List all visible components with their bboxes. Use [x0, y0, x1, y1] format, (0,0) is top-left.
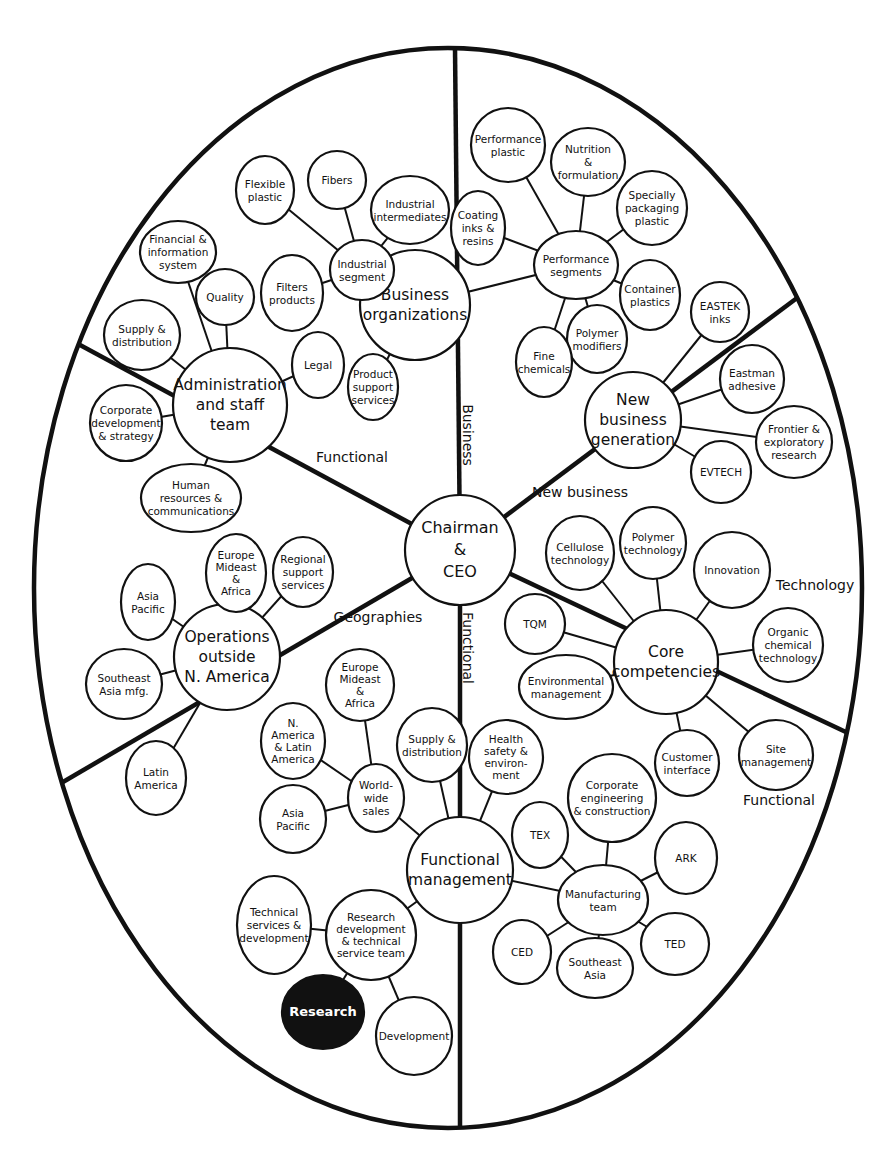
- node-na-latin-america[interactable]: N.America& LatinAmerica: [261, 703, 325, 779]
- node-organic-chemical-technology[interactable]: Organicchemicaltechnology: [753, 608, 823, 682]
- node-label: Supply &: [408, 733, 455, 745]
- node-label: environ-: [484, 757, 527, 769]
- node-label: Functional: [420, 851, 500, 869]
- node-supply-distribution-func[interactable]: Supply &distribution: [397, 708, 467, 782]
- node-fine-chemicals[interactable]: Finechemicals: [516, 327, 572, 397]
- node-label: Supply &: [118, 323, 165, 335]
- node-frontier-exploratory-research[interactable]: Frontier &exploratoryresearch: [756, 406, 832, 478]
- node-legal[interactable]: Legal: [292, 332, 344, 398]
- node-label: inks: [709, 313, 730, 325]
- node-innovation[interactable]: Innovation: [694, 532, 770, 608]
- bubble-shape: [614, 610, 718, 714]
- sector-label-new-business: New business: [532, 484, 628, 500]
- node-label: & technical: [341, 935, 400, 947]
- node-ceo[interactable]: Chairman&CEO: [405, 495, 515, 605]
- node-health-safety-environment[interactable]: Healthsafety &environ-ment: [469, 720, 543, 794]
- node-corporate-development-strategy[interactable]: Corporatedevelopment& strategy: [90, 385, 162, 461]
- node-specially-packaging-plastic[interactable]: Speciallypackagingplastic: [617, 171, 687, 245]
- node-regional-support-services[interactable]: Regionalsupportservices: [273, 537, 333, 607]
- node-label: America: [134, 779, 177, 791]
- node-polymer-technology[interactable]: Polymertechnology: [620, 507, 686, 579]
- node-southeast-asia-mfg-team[interactable]: SoutheastAsia: [557, 938, 633, 998]
- node-customer-interface[interactable]: Customerinterface: [655, 730, 719, 796]
- node-label: organizations: [363, 306, 467, 324]
- node-technical-services-development[interactable]: Technicalservices &development: [237, 876, 311, 974]
- node-label: Asia: [584, 969, 606, 981]
- node-industrial-segment[interactable]: Industrialsegment: [330, 240, 394, 300]
- node-europe-mideast-africa-sales[interactable]: EuropeMideast&Africa: [326, 649, 394, 721]
- node-label: Human: [172, 479, 210, 491]
- node-fibers[interactable]: Fibers: [308, 151, 366, 209]
- node-functional-management[interactable]: Functionalmanagement: [407, 817, 513, 923]
- node-industrial-intermediates[interactable]: Industrialintermediates: [371, 176, 449, 244]
- node-nutrition-formulation[interactable]: Nutrition&formulation: [551, 128, 625, 196]
- node-core-competencies[interactable]: Corecompetencies: [612, 610, 720, 714]
- node-container-plastics[interactable]: Containerplastics: [620, 260, 680, 330]
- node-label: & Latin: [274, 741, 312, 753]
- sector-label-geographies: Geographies: [334, 609, 423, 625]
- node-evtech[interactable]: EVTECH: [691, 441, 751, 503]
- node-label: chemicals: [518, 363, 571, 375]
- node-europe-mideast-africa-ops[interactable]: EuropeMideast&Africa: [206, 534, 266, 612]
- node-label: distribution: [402, 746, 462, 758]
- org-bubble-diagram: BusinessorganizationsIndustrialsegmentFl…: [0, 0, 896, 1151]
- node-label: Cellulose: [556, 541, 604, 553]
- node-supply-distribution-admin[interactable]: Supply &distribution: [104, 300, 180, 370]
- node-performance-plastic[interactable]: Performanceplastic: [471, 108, 545, 182]
- node-human-resources-communications[interactable]: Humanresources &communications: [141, 464, 241, 532]
- node-label: engineering: [581, 792, 644, 804]
- node-flexible-plastic[interactable]: Flexibleplastic: [236, 156, 294, 224]
- node-asia-pacific-sales[interactable]: AsiaPacific: [260, 785, 326, 853]
- node-performance-segments[interactable]: Performancesegments: [534, 231, 618, 299]
- node-label: Mideast: [215, 561, 256, 573]
- node-label: Latin: [143, 766, 169, 778]
- node-cellulose-technology[interactable]: Cellulosetechnology: [546, 516, 614, 590]
- node-southeast-asia-mfg[interactable]: SoutheastAsia mfg.: [86, 649, 162, 719]
- node-eastek-inks[interactable]: EASTEKinks: [691, 282, 749, 342]
- node-tqm[interactable]: TQM: [505, 594, 565, 654]
- node-coating-inks-resins[interactable]: Coatinginks &resins: [451, 191, 505, 265]
- node-label: sales: [363, 805, 390, 817]
- node-label: ment: [492, 769, 519, 781]
- node-label: plastic: [248, 191, 283, 203]
- node-ced[interactable]: CED: [493, 920, 551, 984]
- node-ark[interactable]: ARK: [655, 822, 717, 894]
- node-eastman-adhesive[interactable]: Eastmanadhesive: [720, 345, 784, 413]
- node-label: safety &: [484, 745, 528, 757]
- node-ted[interactable]: TED: [641, 913, 709, 975]
- node-label: Coating: [458, 209, 499, 221]
- node-label: EASTEK: [700, 300, 742, 312]
- node-site-management[interactable]: Sitemanagement: [739, 720, 813, 790]
- node-environmental-management[interactable]: Environmentalmanagement: [519, 655, 613, 719]
- node-product-support-services[interactable]: Productsupportservices: [348, 354, 398, 420]
- node-label: services &: [247, 919, 302, 931]
- sector-label-technology: Technology: [775, 577, 854, 593]
- node-label: Flexible: [245, 178, 285, 190]
- node-label: TQM: [522, 618, 547, 630]
- node-label: Customer: [661, 751, 713, 763]
- node-filters-products[interactable]: Filtersproducts: [261, 255, 323, 331]
- node-label: plastics: [630, 296, 670, 308]
- node-development[interactable]: Development: [376, 997, 452, 1075]
- node-label: &: [454, 540, 466, 559]
- node-operations-outside-na[interactable]: OperationsoutsideN. America: [174, 604, 280, 710]
- node-label: N.: [287, 717, 298, 729]
- node-world-wide-sales[interactable]: World-widesales: [348, 764, 404, 832]
- node-tex[interactable]: TEX: [512, 802, 568, 868]
- node-asia-pacific-ops[interactable]: AsiaPacific: [121, 564, 175, 640]
- node-label: Health: [489, 733, 523, 745]
- node-administration-staff-team[interactable]: Administrationand staffteam: [173, 348, 287, 462]
- node-label: ARK: [675, 852, 697, 864]
- node-new-business-generation[interactable]: Newbusinessgeneration: [585, 372, 681, 468]
- node-label: N. America: [184, 668, 269, 686]
- node-label: development: [239, 932, 308, 944]
- node-manufacturing-team[interactable]: Manufacturingteam: [558, 865, 648, 935]
- node-latin-america[interactable]: LatinAmerica: [126, 741, 186, 815]
- node-quality[interactable]: Quality: [196, 269, 254, 325]
- node-label: chemical: [764, 639, 811, 651]
- node-polymer-modifiers[interactable]: Polymermodifiers: [567, 305, 627, 373]
- node-rd-technical-service-team[interactable]: Researchdevelopment& technicalservice te…: [326, 890, 416, 980]
- node-financial-information-system[interactable]: Financial &informationsystem: [140, 221, 216, 283]
- node-corporate-engineering-construction[interactable]: Corporateengineering& construction: [568, 754, 656, 842]
- node-research[interactable]: Research: [282, 975, 364, 1049]
